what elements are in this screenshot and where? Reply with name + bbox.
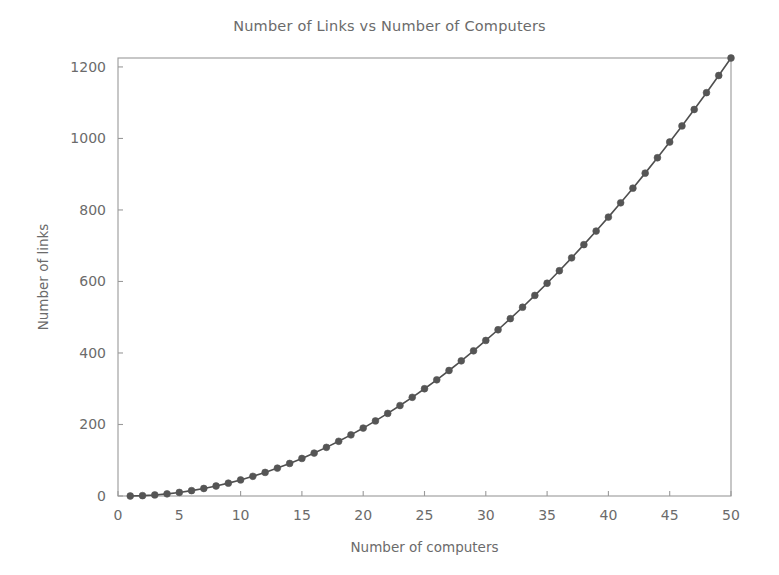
data-point-marker bbox=[715, 72, 722, 79]
data-point-marker bbox=[249, 473, 256, 480]
x-tick-label: 50 bbox=[722, 507, 740, 523]
x-tick-label: 5 bbox=[175, 507, 184, 523]
data-point-marker bbox=[642, 170, 649, 177]
x-tick-label: 30 bbox=[477, 507, 495, 523]
y-tick-label: 400 bbox=[79, 345, 106, 361]
data-point-marker bbox=[127, 493, 134, 500]
data-point-marker bbox=[630, 185, 637, 192]
data-point-marker bbox=[666, 139, 673, 146]
y-tick-label: 600 bbox=[79, 273, 106, 289]
data-point-marker bbox=[188, 487, 195, 494]
data-point-marker bbox=[213, 483, 220, 490]
x-tick-label: 25 bbox=[416, 507, 434, 523]
x-tick-label: 10 bbox=[232, 507, 250, 523]
y-tick-label: 0 bbox=[97, 488, 106, 504]
x-tick-label: 35 bbox=[538, 507, 556, 523]
data-point-marker bbox=[176, 489, 183, 496]
data-point-marker bbox=[654, 154, 661, 161]
data-point-marker bbox=[311, 450, 318, 457]
data-point-marker bbox=[556, 267, 563, 274]
data-point-marker bbox=[605, 214, 612, 221]
y-axis-title: Number of links bbox=[35, 224, 51, 331]
data-point-marker bbox=[728, 55, 735, 62]
data-point-marker bbox=[200, 485, 207, 492]
x-tick-label: 40 bbox=[599, 507, 617, 523]
data-point-marker bbox=[458, 357, 465, 364]
data-point-marker bbox=[384, 410, 391, 417]
data-point-marker bbox=[164, 490, 171, 497]
data-point-marker bbox=[703, 89, 710, 96]
figure-canvas: Number of Links vs Number of Computers 0… bbox=[0, 0, 779, 575]
data-point-marker bbox=[409, 394, 416, 401]
y-tick-label: 1000 bbox=[70, 130, 106, 146]
data-point-marker bbox=[397, 402, 404, 409]
data-point-marker bbox=[568, 254, 575, 261]
axis-labels-group: 0510152025303540455002004006008001000120… bbox=[35, 59, 740, 555]
data-point-marker bbox=[433, 376, 440, 383]
series-line bbox=[130, 58, 731, 496]
data-point-marker bbox=[421, 385, 428, 392]
data-point-marker bbox=[617, 199, 624, 206]
x-tick-label: 20 bbox=[354, 507, 372, 523]
data-series-group bbox=[127, 55, 735, 500]
data-point-marker bbox=[519, 304, 526, 311]
data-point-marker bbox=[691, 106, 698, 113]
data-point-marker bbox=[470, 347, 477, 354]
data-point-marker bbox=[580, 241, 587, 248]
data-point-marker bbox=[482, 337, 489, 344]
y-tick-label: 200 bbox=[79, 416, 106, 432]
data-point-marker bbox=[151, 492, 158, 499]
data-point-marker bbox=[446, 367, 453, 374]
data-point-marker bbox=[507, 315, 514, 322]
data-point-marker bbox=[323, 444, 330, 451]
axes-group bbox=[118, 58, 731, 496]
data-point-marker bbox=[139, 492, 146, 499]
x-axis-title: Number of computers bbox=[351, 539, 499, 555]
data-point-marker bbox=[360, 425, 367, 432]
data-point-marker bbox=[348, 431, 355, 438]
data-point-marker bbox=[495, 326, 502, 333]
x-tick-label: 0 bbox=[114, 507, 123, 523]
y-tick-label: 1200 bbox=[70, 59, 106, 75]
x-tick-label: 15 bbox=[293, 507, 311, 523]
data-point-marker bbox=[299, 455, 306, 462]
data-point-marker bbox=[225, 480, 232, 487]
data-point-marker bbox=[372, 418, 379, 425]
data-point-marker bbox=[335, 438, 342, 445]
data-point-marker bbox=[593, 228, 600, 235]
data-point-marker bbox=[262, 469, 269, 476]
data-point-marker bbox=[544, 280, 551, 287]
plot-area: 0510152025303540455002004006008001000120… bbox=[0, 0, 779, 575]
y-tick-label: 800 bbox=[79, 202, 106, 218]
data-point-marker bbox=[531, 292, 538, 299]
data-point-marker bbox=[274, 465, 281, 472]
data-point-marker bbox=[679, 123, 686, 130]
plot-frame bbox=[118, 58, 731, 496]
data-point-marker bbox=[237, 477, 244, 484]
x-tick-label: 45 bbox=[661, 507, 679, 523]
data-point-marker bbox=[286, 460, 293, 467]
